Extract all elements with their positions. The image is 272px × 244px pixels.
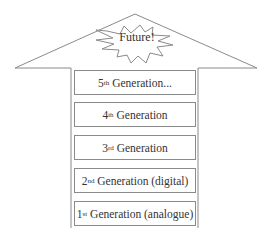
generation-2-box: 2nd Generation (digital) <box>74 168 196 193</box>
future-label: Future! <box>112 30 162 44</box>
generation-5-label: Generation... <box>112 77 172 89</box>
generation-3-label: Generation <box>117 142 168 154</box>
generation-4-label: Generation <box>116 109 167 121</box>
generation-1-ordinal: 1 <box>77 208 83 220</box>
generation-5-box: 5th Generation... <box>74 70 196 95</box>
generation-1-box: 1st Generation (analogue) <box>74 201 196 226</box>
generation-3-box: 3rd Generation <box>74 135 196 160</box>
generation-4-box: 4th Generation <box>74 102 196 127</box>
generation-2-label: Generation (digital) <box>97 175 188 187</box>
generation-5-ordinal: 5 <box>98 77 104 89</box>
generation-1-label: Generation (analogue) <box>90 208 193 220</box>
